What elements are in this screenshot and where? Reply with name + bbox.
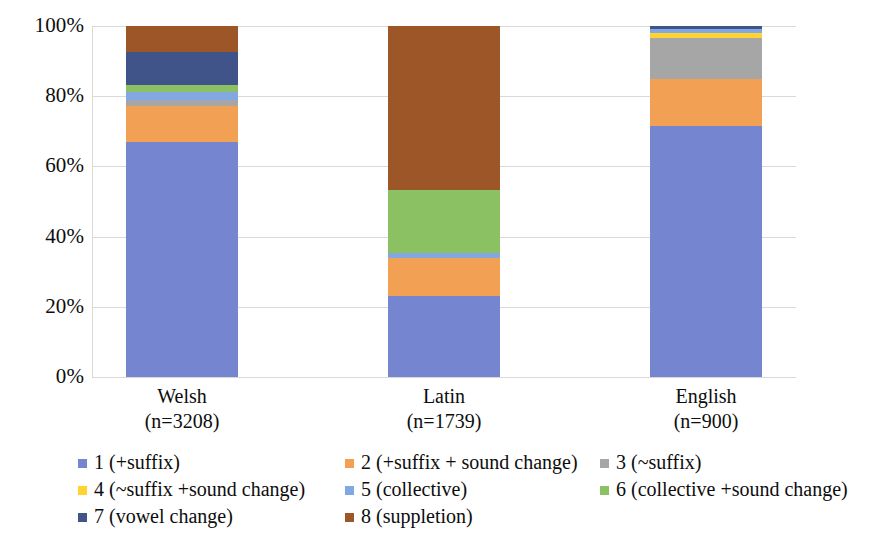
value-axis-tick-label: 80% (4, 85, 84, 106)
legend-label: 1 (+suffix) (94, 450, 180, 474)
bar-segment[interactable] (126, 52, 238, 85)
legend-item[interactable]: 2 (+suffix + sound change) (345, 450, 578, 474)
category-label: Welsh(n=3208) (62, 384, 302, 434)
legend-swatch-icon (78, 486, 87, 495)
legend-swatch-icon (345, 513, 354, 522)
chart-legend: 1 (+suffix)2 (+suffix + sound change)3 (… (0, 448, 875, 533)
bar-segment[interactable] (388, 296, 500, 377)
category-count: (n=1739) (324, 409, 564, 434)
bar-segment[interactable] (388, 26, 500, 190)
bar-segment[interactable] (126, 100, 238, 106)
legend-label: 5 (collective) (361, 477, 467, 501)
bar-segment[interactable] (650, 79, 762, 126)
bar-segment[interactable] (126, 85, 238, 92)
plot-area (92, 26, 796, 377)
bar-stack[interactable] (388, 26, 500, 377)
category-label: Latin(n=1739) (324, 384, 564, 434)
legend-item[interactable]: 7 (vowel change) (78, 504, 233, 528)
legend-swatch-icon (78, 459, 87, 468)
legend-swatch-icon (600, 459, 609, 468)
legend-label: 8 (suppletion) (361, 504, 473, 528)
legend-swatch-icon (345, 486, 354, 495)
legend-label: 4 (~suffix +sound change) (94, 477, 305, 501)
value-axis-tick-label: 20% (4, 296, 84, 317)
bar-segment[interactable] (126, 92, 238, 100)
legend-label: 7 (vowel change) (94, 504, 233, 528)
legend-item[interactable]: 4 (~suffix +sound change) (78, 477, 305, 501)
bar-segment[interactable] (388, 258, 500, 297)
category-label: English(n=900) (586, 384, 826, 434)
legend-item[interactable]: 8 (suppletion) (345, 504, 473, 528)
stacked-bar-chart: 0%20%40%60%80%100% Welsh(n=3208)Latin(n=… (0, 0, 875, 545)
bar-stack[interactable] (650, 26, 762, 377)
bar-segment[interactable] (650, 38, 762, 78)
category-count: (n=3208) (62, 409, 302, 434)
legend-label: 3 (~suffix) (616, 450, 701, 474)
legend-item[interactable]: 6 (collective +sound change) (600, 477, 848, 501)
bar-segment[interactable] (650, 33, 762, 39)
category-name: English (675, 385, 736, 407)
bar-segment[interactable] (126, 142, 238, 377)
legend-swatch-icon (78, 513, 87, 522)
gridline (92, 377, 796, 378)
bar-segment[interactable] (126, 106, 238, 142)
category-name: Latin (423, 385, 465, 407)
bar-segment[interactable] (388, 190, 500, 253)
bar-segment[interactable] (650, 29, 762, 33)
value-axis-tick-label: 40% (4, 226, 84, 247)
bar-segment[interactable] (126, 26, 238, 52)
bar-segment[interactable] (650, 26, 762, 29)
legend-label: 6 (collective +sound change) (616, 477, 848, 501)
legend-item[interactable]: 1 (+suffix) (78, 450, 180, 474)
category-count: (n=900) (586, 409, 826, 434)
category-name: Welsh (157, 385, 207, 407)
bar-segment[interactable] (650, 126, 762, 377)
legend-swatch-icon (600, 486, 609, 495)
legend-item[interactable]: 3 (~suffix) (600, 450, 701, 474)
legend-swatch-icon (345, 459, 354, 468)
legend-label: 2 (+suffix + sound change) (361, 450, 578, 474)
value-axis-tick-label: 60% (4, 155, 84, 176)
bar-stack[interactable] (126, 26, 238, 377)
bar-segment[interactable] (388, 253, 500, 257)
value-axis-tick-label: 100% (4, 15, 84, 36)
legend-item[interactable]: 5 (collective) (345, 477, 467, 501)
